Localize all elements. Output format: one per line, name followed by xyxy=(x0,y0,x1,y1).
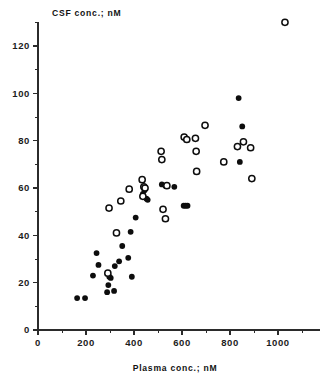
x-tick-label: 800 xyxy=(221,337,239,348)
data-point-filled xyxy=(94,250,100,256)
x-axis-tick-labels: 02004006008001000 xyxy=(35,337,290,348)
data-point-open xyxy=(282,19,288,25)
data-point-open xyxy=(113,230,119,236)
data-point-open xyxy=(221,159,227,165)
data-point-open xyxy=(159,157,165,163)
x-axis-title: Plasma conc.; nM xyxy=(133,363,218,373)
data-point-open xyxy=(140,193,146,199)
data-point-open xyxy=(162,216,168,222)
data-point-filled xyxy=(111,288,117,294)
x-tick-label: 1000 xyxy=(266,337,290,348)
y-tick-label: 120 xyxy=(12,40,30,51)
data-point-filled xyxy=(128,229,134,235)
data-point-open xyxy=(164,183,170,189)
data-point-open xyxy=(202,122,208,128)
data-point-filled xyxy=(133,215,139,221)
data-point-open xyxy=(234,143,240,149)
data-point-filled xyxy=(90,273,96,279)
y-tick-label: 40 xyxy=(18,230,30,241)
x-tick-label: 400 xyxy=(125,337,143,348)
x-tick-label: 0 xyxy=(35,337,41,348)
data-point-open xyxy=(160,206,166,212)
series-filled-circles xyxy=(74,95,245,301)
data-point-filled xyxy=(171,184,177,190)
data-point-open xyxy=(105,270,111,276)
data-point-open xyxy=(126,186,132,192)
x-axis-ticks xyxy=(38,330,302,335)
data-point-filled xyxy=(74,295,80,301)
plot-canvas: 020406080100120 02004006008001000 CSF co… xyxy=(0,0,332,381)
data-point-open xyxy=(193,148,199,154)
data-point-filled xyxy=(105,282,111,288)
data-point-open xyxy=(240,139,246,145)
data-point-open xyxy=(192,135,198,141)
axes-group xyxy=(38,22,320,330)
data-point-filled xyxy=(82,295,88,301)
scatter-plot-figure: 020406080100120 02004006008001000 CSF co… xyxy=(0,0,332,381)
data-point-filled xyxy=(129,274,135,280)
y-tick-label: 80 xyxy=(18,135,30,146)
data-point-open xyxy=(106,205,112,211)
data-point-open xyxy=(184,136,190,142)
data-point-filled xyxy=(237,159,243,165)
y-tick-label: 20 xyxy=(18,277,30,288)
data-point-filled xyxy=(185,203,191,209)
y-tick-label: 60 xyxy=(18,182,30,193)
y-tick-label: 0 xyxy=(24,324,30,335)
data-point-open xyxy=(142,185,148,191)
data-point-filled xyxy=(116,258,122,264)
data-point-filled xyxy=(125,255,131,261)
y-tick-label: 100 xyxy=(12,88,30,99)
data-point-open xyxy=(194,168,200,174)
data-point-filled xyxy=(96,262,102,268)
x-tick-label: 200 xyxy=(77,337,95,348)
data-point-filled xyxy=(104,289,110,295)
data-point-open xyxy=(139,177,145,183)
x-tick-label: 600 xyxy=(173,337,191,348)
y-axis-ticks xyxy=(33,22,38,330)
data-point-filled xyxy=(239,124,245,130)
y-axis-title: CSF conc.; nM xyxy=(52,8,121,18)
data-point-filled xyxy=(236,95,242,101)
data-point-filled xyxy=(119,243,125,249)
data-point-open xyxy=(249,175,255,181)
y-axis-tick-labels: 020406080100120 xyxy=(12,40,30,335)
data-point-open xyxy=(158,148,164,154)
data-point-filled xyxy=(112,263,118,269)
data-point-open xyxy=(248,145,254,151)
data-point-open xyxy=(118,198,124,204)
series-open-circles xyxy=(105,19,288,276)
